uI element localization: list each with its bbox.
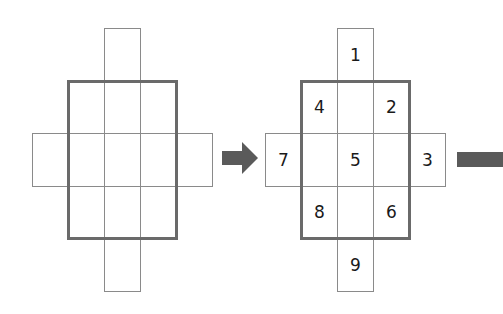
grid-cell: 7 xyxy=(265,133,302,187)
grid-cell: 1 xyxy=(337,28,374,82)
grid-cell: 3 xyxy=(409,133,446,187)
grid-cell: 9 xyxy=(337,238,374,292)
grid-cell xyxy=(373,133,410,187)
grid-cell xyxy=(301,133,338,187)
right-arrow-icon-cropped xyxy=(457,152,503,167)
grid-cell: 4 xyxy=(301,81,338,135)
grid-cell xyxy=(104,186,141,240)
grid-cell xyxy=(32,133,69,187)
grid-cell xyxy=(68,186,105,240)
grid-cell xyxy=(104,238,141,292)
grid-cell xyxy=(68,133,105,187)
grid-cell xyxy=(104,133,141,187)
grid-cell xyxy=(140,81,177,135)
grid-cell: 6 xyxy=(373,186,410,240)
grid-cell xyxy=(337,81,374,135)
right-arrow-icon xyxy=(222,142,258,174)
grid-cell xyxy=(140,186,177,240)
grid-cell xyxy=(104,81,141,135)
grid-cell xyxy=(68,81,105,135)
grid-cell: 8 xyxy=(301,186,338,240)
grid-cell xyxy=(337,186,374,240)
grid-cell xyxy=(104,28,141,82)
grid-cell xyxy=(176,133,213,187)
grid-cell: 5 xyxy=(337,133,374,187)
grid-cell xyxy=(140,133,177,187)
grid-cell: 2 xyxy=(373,81,410,135)
